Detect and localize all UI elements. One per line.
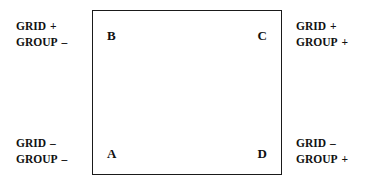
grid-sign: – bbox=[330, 136, 336, 152]
grid-sign: – bbox=[50, 136, 56, 152]
corner-letter-d: D bbox=[257, 147, 267, 160]
grid-term: GRID bbox=[296, 19, 326, 35]
quadrant-label-bottom-right-line1: GRID– bbox=[296, 136, 348, 152]
group-sign: – bbox=[62, 35, 68, 51]
quadrant-label-top-right: GRID+ GROUP+ bbox=[296, 19, 348, 50]
quadrant-label-bottom-left: GRID– GROUP– bbox=[16, 136, 67, 167]
corner-letter-b: B bbox=[107, 29, 116, 42]
grid-group-quadrant-diagram: GRID+ GROUP– GRID+ GROUP+ GRID– GROUP– G… bbox=[0, 0, 369, 185]
quadrant-label-bottom-left-line1: GRID– bbox=[16, 136, 67, 152]
corner-letter-a: A bbox=[107, 147, 117, 160]
quadrant-label-top-left-line2: GROUP– bbox=[16, 35, 67, 51]
grid-sign: + bbox=[50, 19, 57, 35]
corner-letter-c: C bbox=[257, 29, 267, 42]
quadrant-label-top-right-line2: GROUP+ bbox=[296, 35, 348, 51]
quadrant-label-top-right-line1: GRID+ bbox=[296, 19, 348, 35]
quadrant-box: B C A D bbox=[92, 10, 282, 175]
group-sign: + bbox=[342, 152, 349, 168]
group-sign: + bbox=[342, 35, 349, 51]
quadrant-label-top-left-line1: GRID+ bbox=[16, 19, 67, 35]
quadrant-label-bottom-right: GRID– GROUP+ bbox=[296, 136, 348, 167]
group-term: GROUP bbox=[296, 152, 338, 168]
group-sign: – bbox=[62, 152, 68, 168]
quadrant-label-bottom-left-line2: GROUP– bbox=[16, 152, 67, 168]
grid-term: GRID bbox=[296, 136, 326, 152]
group-term: GROUP bbox=[16, 35, 58, 51]
grid-term: GRID bbox=[16, 136, 46, 152]
group-term: GROUP bbox=[16, 152, 58, 168]
group-term: GROUP bbox=[296, 35, 338, 51]
quadrant-label-top-left: GRID+ GROUP– bbox=[16, 19, 67, 50]
grid-sign: + bbox=[330, 19, 337, 35]
quadrant-label-bottom-right-line2: GROUP+ bbox=[296, 152, 348, 168]
grid-term: GRID bbox=[16, 19, 46, 35]
